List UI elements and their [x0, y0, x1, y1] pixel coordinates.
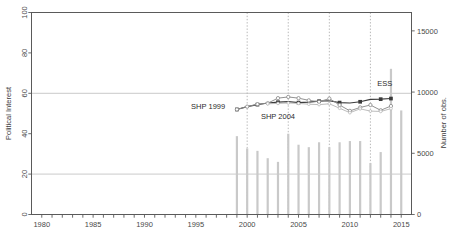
series-marker-circle-light	[297, 102, 300, 105]
y2-axis-title: Number of obs.	[439, 97, 448, 148]
x-axis-tick-label: 1985	[85, 220, 102, 229]
y-axis-tick-label: 60	[20, 89, 29, 97]
y-axis-tick-label: 20	[20, 170, 29, 178]
series-marker-circle	[246, 105, 249, 108]
annotation-ess: ESS	[377, 79, 392, 88]
series-marker-circle	[235, 108, 238, 111]
series-marker-circle-light	[359, 108, 362, 111]
x-axis-tick-label: 2005	[290, 220, 307, 229]
series-marker-square	[389, 97, 393, 101]
series-marker-circle-light	[328, 102, 331, 105]
series-marker-circle-light	[369, 110, 372, 113]
series-marker-circle	[256, 103, 259, 106]
series-marker-circle	[276, 96, 279, 99]
series-marker-circle	[369, 103, 372, 106]
y2-axis-tick-label: 15000	[417, 27, 438, 36]
y2-axis-tick-label: 10000	[417, 88, 438, 97]
x-axis-tick-label: 2010	[342, 220, 359, 229]
chart-background	[0, 0, 456, 239]
series-marker-circle	[338, 103, 341, 106]
series-marker-circle	[307, 99, 310, 102]
series-marker-circle-light	[338, 107, 341, 110]
annotation-shp-1999: SHP 1999	[191, 102, 225, 111]
y2-axis-tick-label: 0	[417, 210, 421, 219]
series-marker-circle	[297, 96, 300, 99]
series-marker-circle-light	[307, 103, 310, 106]
annotation-shp-2004: SHP 2004	[261, 112, 295, 121]
series-marker-circle	[328, 97, 331, 100]
series-marker-circle-light	[349, 111, 352, 114]
y-axis-tick-label: 80	[20, 49, 29, 57]
x-axis-tick-label: 1980	[33, 220, 50, 229]
series-marker-circle-light	[379, 110, 382, 113]
chart-figure: 1980198519901995200020052010201502040608…	[0, 0, 456, 239]
y2-axis-tick-label: 5000	[417, 149, 434, 158]
x-axis-tick-label: 1995	[187, 220, 204, 229]
y-axis-title: Political Interest	[4, 86, 13, 140]
series-marker-circle-light	[287, 102, 290, 105]
series-marker-circle-light	[390, 107, 393, 110]
x-axis-tick-label: 1990	[136, 220, 153, 229]
series-marker-square	[379, 97, 383, 101]
x-axis-tick-label: 2015	[393, 220, 410, 229]
series-marker-circle-light	[277, 102, 280, 105]
x-axis-tick-label: 2000	[239, 220, 256, 229]
political-interest-observations-chart: 1980198519901995200020052010201502040608…	[0, 0, 456, 239]
series-marker-square	[358, 100, 362, 104]
series-marker-circle	[287, 95, 290, 98]
y-axis-tick-label: 0	[20, 212, 29, 216]
series-marker-circle-light	[318, 103, 321, 106]
y-axis-tick-label: 40	[20, 130, 29, 138]
series-marker-circle-light	[266, 102, 269, 105]
y-axis-tick-label: 100	[20, 6, 29, 19]
